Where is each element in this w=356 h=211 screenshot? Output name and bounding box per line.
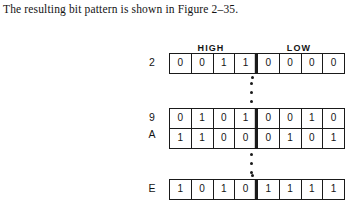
bit-cell: 1 bbox=[192, 129, 214, 148]
bit-cell: 0 bbox=[258, 109, 280, 128]
bit-cell: 0 bbox=[323, 109, 344, 128]
bit-cell: 0 bbox=[170, 54, 192, 73]
bit-cell: 0 bbox=[280, 54, 302, 73]
bit-cell: 0 bbox=[192, 54, 214, 73]
bit-cell: 1 bbox=[302, 180, 324, 199]
row-label-2: A bbox=[145, 128, 159, 141]
high-nibble-header: HIGH bbox=[169, 43, 253, 53]
bit-cell: 1 bbox=[235, 54, 258, 73]
bit-cell: 1 bbox=[323, 180, 344, 199]
vertical-ellipsis bbox=[249, 153, 253, 174]
bit-cell: 0 bbox=[258, 54, 280, 73]
bit-cell: 1 bbox=[280, 180, 302, 199]
bit-cell: 0 bbox=[280, 109, 302, 128]
row-label-1: 9 bbox=[145, 111, 159, 124]
bit-cell: 0 bbox=[170, 109, 192, 128]
bit-cell: 0 bbox=[302, 54, 324, 73]
bit-cell: 1 bbox=[170, 129, 192, 148]
table-row: 0 1 0 1 0 0 1 0 bbox=[169, 108, 345, 129]
nibble-divider-tick bbox=[251, 76, 254, 79]
nibble-divider-tick bbox=[251, 174, 254, 177]
bit-cell: 0 bbox=[235, 180, 258, 199]
bit-cell: 1 bbox=[192, 109, 214, 128]
bit-cell: 1 bbox=[280, 129, 302, 148]
vertical-ellipsis bbox=[249, 82, 253, 103]
bit-cell: 1 bbox=[214, 180, 236, 199]
bit-cell: 0 bbox=[192, 180, 214, 199]
bit-cell: 1 bbox=[258, 180, 280, 199]
table-row: 1 0 1 0 1 1 1 1 bbox=[169, 179, 345, 200]
bit-cell: 1 bbox=[323, 129, 344, 148]
bit-pattern-figure: HIGH LOW 2 0 0 1 1 0 0 0 0 9 0 1 0 1 0 0… bbox=[0, 0, 356, 211]
bit-cell: 1 bbox=[302, 109, 324, 128]
low-nibble-header: LOW bbox=[253, 43, 345, 53]
bit-cell: 0 bbox=[258, 129, 280, 148]
bit-cell: 0 bbox=[214, 109, 236, 128]
table-row: 0 0 1 1 0 0 0 0 bbox=[169, 53, 345, 74]
bit-cell: 0 bbox=[235, 129, 258, 148]
row-label-3: E bbox=[145, 182, 159, 195]
bit-cell: 0 bbox=[302, 129, 324, 148]
bit-cell: 1 bbox=[214, 54, 236, 73]
bit-cell: 1 bbox=[170, 180, 192, 199]
table-row: 1 1 0 0 0 1 0 1 bbox=[169, 128, 345, 149]
row-label-0: 2 bbox=[145, 56, 159, 69]
bit-cell: 0 bbox=[323, 54, 344, 73]
bit-cell: 0 bbox=[214, 129, 236, 148]
bit-cell: 1 bbox=[235, 109, 258, 128]
